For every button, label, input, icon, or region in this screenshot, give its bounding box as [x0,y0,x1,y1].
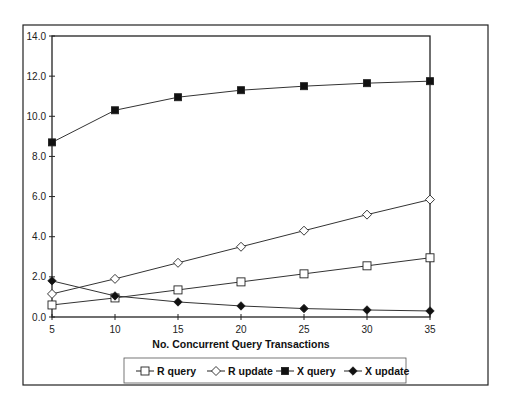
square-marker-icon [48,301,56,309]
plot-area [52,36,430,317]
legend-label: X update [365,365,409,377]
chart-frame [23,25,488,385]
y-tick-label: 8.0 [32,151,46,162]
series-x-query [49,78,434,146]
y-tick-label: 12.0 [27,71,47,82]
diamond-marker-icon [237,242,246,251]
square-marker-icon [141,367,149,375]
square-marker-icon [363,262,371,270]
legend-item: R update [207,365,273,377]
square-marker-icon [175,94,182,101]
y-tick-label: 0.0 [32,312,46,323]
legend: R queryR updateX queryX update [124,358,409,383]
diamond-marker-icon [48,289,57,298]
square-marker-icon [49,139,56,146]
x-tick-label: 15 [172,324,184,335]
square-marker-icon [174,286,182,294]
square-marker-icon [238,87,245,94]
legend-label: R query [157,365,196,377]
square-marker-icon [427,78,434,85]
square-marker-icon [426,254,434,262]
y-tick-label: 6.0 [32,191,46,202]
y-tick-label: 10.0 [27,111,47,122]
diamond-marker-icon [426,195,435,204]
x-tick-label: 5 [49,324,55,335]
square-marker-icon [112,107,119,114]
y-tick-label: 4.0 [32,231,46,242]
y-tick-label: 14.0 [27,31,47,42]
x-tick-label: 30 [361,324,373,335]
x-axis-title: No. Concurrent Query Transactions [152,338,330,350]
diamond-marker-icon [174,298,182,306]
x-tick-label: 10 [109,324,121,335]
plot-border [52,36,430,317]
square-marker-icon [301,83,308,90]
square-marker-icon [300,270,308,278]
series-layer [48,78,435,316]
x-tick-label: 25 [298,324,310,335]
y-tick-label: 2.0 [32,271,46,282]
diamond-marker-icon [300,304,308,312]
diamond-marker-icon [426,307,434,315]
legend-item: R query [136,365,196,377]
x-tick-label: 20 [235,324,247,335]
square-marker-icon [364,80,371,87]
diamond-marker-icon [48,277,56,285]
diamond-marker-icon [174,258,183,267]
diamond-marker-icon [300,226,309,235]
chart-canvas: 0.02.04.06.08.010.012.014.0 510152025303… [0,0,509,406]
diamond-marker-icon [237,302,245,310]
x-tick-label: 35 [424,324,436,335]
diamond-marker-icon [363,306,371,314]
legend-label: X query [297,365,336,377]
diamond-marker-icon [363,210,372,219]
square-marker-icon [237,278,245,286]
legend-label: R update [228,365,273,377]
square-marker-icon [282,368,289,375]
diamond-marker-icon [111,274,120,283]
